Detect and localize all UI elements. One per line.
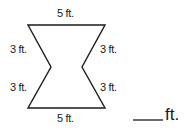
side-label-bottom: 5 ft. xyxy=(57,113,74,124)
hexagon-figure xyxy=(0,0,192,132)
side-label-top: 5 ft. xyxy=(57,8,74,19)
side-label-lower-left: 3 ft. xyxy=(10,82,27,93)
side-label-upper-right: 3 ft. xyxy=(100,44,117,55)
answer-unit: ft. xyxy=(165,106,179,123)
side-label-lower-right: 3 ft. xyxy=(100,82,117,93)
side-label-upper-left: 3 ft. xyxy=(10,44,27,55)
